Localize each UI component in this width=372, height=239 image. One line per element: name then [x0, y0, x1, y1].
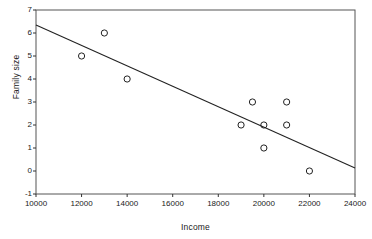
y-axis-tick-label: 0 [16, 167, 32, 175]
x-axis-tick-label: 12000 [62, 200, 102, 208]
x-axis-tick-label: 16000 [153, 200, 193, 208]
data-point-marker [284, 122, 290, 128]
data-point-marker [124, 76, 130, 82]
data-point-marker [261, 145, 267, 151]
y-axis-title: Family size [11, 37, 21, 117]
x-axis-tick-label: 18000 [198, 200, 238, 208]
x-axis-tick-label: 14000 [107, 200, 147, 208]
data-point-group [78, 30, 312, 174]
data-point-marker [238, 122, 244, 128]
data-point-marker [306, 168, 312, 174]
data-point-marker [101, 30, 107, 36]
x-axis-tick-label: 20000 [244, 200, 284, 208]
x-axis-title: Income [36, 222, 355, 232]
scatter-plot-figure: -101234567 10000120001400016000180002000… [0, 0, 372, 239]
x-axis-tick-label: 10000 [16, 200, 56, 208]
y-axis-tick-label: -1 [16, 190, 32, 198]
y-axis-tick-label: 7 [16, 6, 32, 14]
y-axis-tick-label: 2 [16, 121, 32, 129]
x-axis-tick-label: 24000 [335, 200, 372, 208]
data-point-marker [249, 99, 255, 105]
regression-line [36, 25, 355, 168]
plot-area-border [36, 10, 355, 194]
y-axis-tick-label: 1 [16, 144, 32, 152]
data-point-marker [284, 99, 290, 105]
x-axis-tick-label: 22000 [289, 200, 329, 208]
x-axis-tick-labels: 1000012000140001600018000200002200024000 [0, 200, 372, 214]
y-axis-tick-label: 6 [16, 29, 32, 37]
data-point-marker [78, 53, 84, 59]
